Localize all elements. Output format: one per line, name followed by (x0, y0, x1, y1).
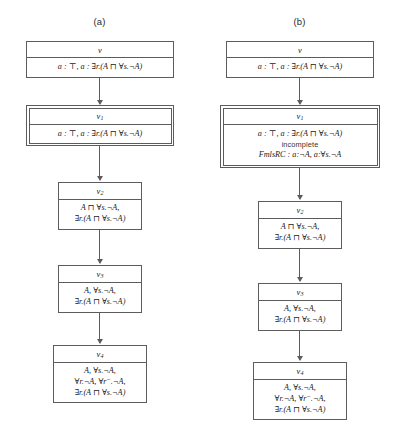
node-label-subscript: 1 (300, 115, 303, 121)
node-label-subscript: 4 (100, 353, 103, 359)
arrow-nu-to-v1 (99, 78, 100, 104)
panel-a-node-v1-header: v1 (30, 109, 171, 126)
panel-b-node-v4-body: A, ∀s.¬A, ∀r.¬A, ∀r⁻.¬A, ∃r.(A ⊓ ∀s.¬A) (254, 380, 346, 420)
panel-b-node-nu-body: a : ⊤, a : ∃r.(A ⊓ ∀s.¬A) (227, 58, 373, 76)
node-label-subscript: 1 (100, 115, 103, 121)
panel-a: (a) ν a : ⊤, a : ∃r.(A ⊓ ∀s.¬A) v1 a : ⊤… (0, 0, 199, 435)
panel-a-node-v3: v3 A, ∀s.¬A, ∃r.(A ⊓ ∀s.¬A) (58, 265, 142, 313)
arrow-v3-to-v4 (299, 331, 300, 360)
panel-b-node-v1-header: v1 (224, 109, 377, 126)
formula-line: A ⊓ ∀s.¬A, (62, 203, 138, 214)
formula-line: ∃r.(A ⊓ ∀s.¬A) (62, 214, 138, 225)
node-label: ν (98, 45, 102, 55)
panel-a-node-nu-header: ν (27, 42, 173, 58)
arrow-v1-to-v2 (299, 168, 300, 199)
node-label-subscript: 2 (100, 190, 103, 196)
formula-line: ∃r.(A ⊓ ∀s.¬A) (62, 297, 138, 308)
panel-a-node-v2-header: v2 (59, 183, 141, 200)
panel-b-node-v3-body: A, ∀s.¬A, ∃r.(A ⊓ ∀s.¬A) (259, 301, 341, 330)
panel-b-node-nu: ν a : ⊤, a : ∃r.(A ⊓ ∀s.¬A) (226, 41, 374, 78)
panel-b: (b) ν a : ⊤, a : ∃r.(A ⊓ ∀s.¬A) v1 a : ⊤… (200, 0, 399, 435)
tableau-derivation-figure: (a) ν a : ⊤, a : ∃r.(A ⊓ ∀s.¬A) v1 a : ⊤… (0, 0, 399, 435)
panel-a-node-v4-body: A, ∀s.¬A, ∀r.¬A, ∀r⁻.¬A, ∃r.(A ⊓ ∀s.¬A) (54, 363, 146, 403)
panel-b-node-v2: v2 A ⊓ ∀s.¬A, ∃r.(A ⊓ ∀s.¬A) (258, 201, 342, 249)
formula-line: ∀r.¬A, ∀r⁻.¬A, (57, 377, 143, 388)
arrow-v3-to-v4 (99, 313, 100, 343)
formula-line: ∃r.(A ⊓ ∀s.¬A) (57, 388, 143, 399)
node-label-subscript: 4 (300, 370, 303, 376)
panel-b-node-v3-header: v3 (259, 284, 341, 301)
arrow-nu-to-v1 (299, 78, 300, 104)
node-label-subscript: 3 (100, 273, 103, 279)
formula-line: A, ∀s.¬A, (262, 304, 338, 315)
panel-a-node-v4-header: v4 (54, 346, 146, 363)
panel-a-label: (a) (0, 16, 199, 27)
formula-line: ∃r.(A ⊓ ∀s.¬A) (262, 233, 338, 244)
formula-line: ∃r.(A ⊓ ∀s.¬A) (262, 315, 338, 326)
fmlsrc-annotation: FmlsRC : a:¬A, a:∀s.¬A (227, 150, 374, 161)
formula-line: ∃r.(A ⊓ ∀s.¬A) (257, 405, 343, 416)
formula-line: ∀r.¬A, ∀r⁻.¬A, (257, 394, 343, 405)
arrow-v1-to-v2 (99, 146, 100, 180)
node-label-subscript: 3 (300, 291, 303, 297)
panel-a-node-nu: ν a : ⊤, a : ∃r.(A ⊓ ∀s.¬A) (26, 41, 174, 78)
incomplete-annotation: incomplete (227, 140, 374, 150)
formula-line: A, ∀s.¬A, (57, 366, 143, 377)
panel-a-node-v3-body: A, ∀s.¬A, ∃r.(A ⊓ ∀s.¬A) (59, 283, 141, 312)
panel-a-node-v1-body: a : ⊤, a : ∃r.(A ⊓ ∀s.¬A) (30, 125, 171, 143)
panel-a-node-v4: v4 A, ∀s.¬A, ∀r.¬A, ∀r⁻.¬A, ∃r.(A ⊓ ∀s.¬… (53, 345, 147, 403)
panel-a-node-nu-body: a : ⊤, a : ∃r.(A ⊓ ∀s.¬A) (27, 58, 173, 76)
panel-a-node-v3-header: v3 (59, 266, 141, 283)
panel-b-node-v1-body: a : ⊤, a : ∃r.(A ⊓ ∀s.¬A) incomplete Fml… (224, 125, 377, 164)
formula-line: a : ⊤, a : ∃r.(A ⊓ ∀s.¬A) (30, 62, 170, 73)
panel-b-node-v2-body: A ⊓ ∀s.¬A, ∃r.(A ⊓ ∀s.¬A) (259, 219, 341, 248)
panel-b-node-v4: v4 A, ∀s.¬A, ∀r.¬A, ∀r⁻.¬A, ∃r.(A ⊓ ∀s.¬… (253, 362, 347, 420)
panel-b-node-nu-header: ν (227, 42, 373, 58)
arrow-v2-to-v3 (99, 230, 100, 263)
formula-line: A, ∀s.¬A, (257, 383, 343, 394)
formula-line: A, ∀s.¬A, (62, 286, 138, 297)
node-label-subscript: 2 (300, 209, 303, 215)
formula-line: A ⊓ ∀s.¬A, (262, 222, 338, 233)
node-label: ν (298, 45, 302, 55)
panel-a-node-v2: v2 A ⊓ ∀s.¬A, ∃r.(A ⊓ ∀s.¬A) (58, 182, 142, 230)
panel-b-node-v3: v3 A, ∀s.¬A, ∃r.(A ⊓ ∀s.¬A) (258, 283, 342, 331)
formula-line: a : ⊤, a : ∃r.(A ⊓ ∀s.¬A) (230, 62, 370, 73)
panel-b-label: (b) (200, 16, 399, 27)
formula-line: a : ⊤, a : ∃r.(A ⊓ ∀s.¬A) (33, 129, 168, 140)
panel-a-node-v2-body: A ⊓ ∀s.¬A, ∃r.(A ⊓ ∀s.¬A) (59, 200, 141, 229)
arrow-v2-to-v3 (299, 249, 300, 281)
panel-b-node-v1: v1 a : ⊤, a : ∃r.(A ⊓ ∀s.¬A) incomplete … (220, 105, 380, 168)
panel-a-node-v1: v1 a : ⊤, a : ∃r.(A ⊓ ∀s.¬A) (26, 105, 174, 146)
panel-b-node-v4-header: v4 (254, 363, 346, 380)
panel-b-node-v2-header: v2 (259, 202, 341, 219)
formula-line: a : ⊤, a : ∃r.(A ⊓ ∀s.¬A) (227, 129, 374, 140)
